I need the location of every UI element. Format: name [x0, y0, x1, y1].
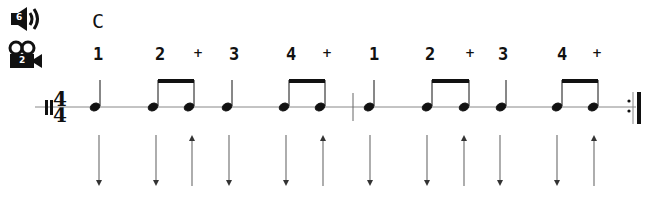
repeat-dot-icon [627, 99, 630, 102]
rhythm-staff [0, 0, 672, 198]
strum-arrows [96, 135, 597, 186]
end-barline-thick [637, 92, 641, 124]
start-bar-icon [45, 100, 48, 115]
